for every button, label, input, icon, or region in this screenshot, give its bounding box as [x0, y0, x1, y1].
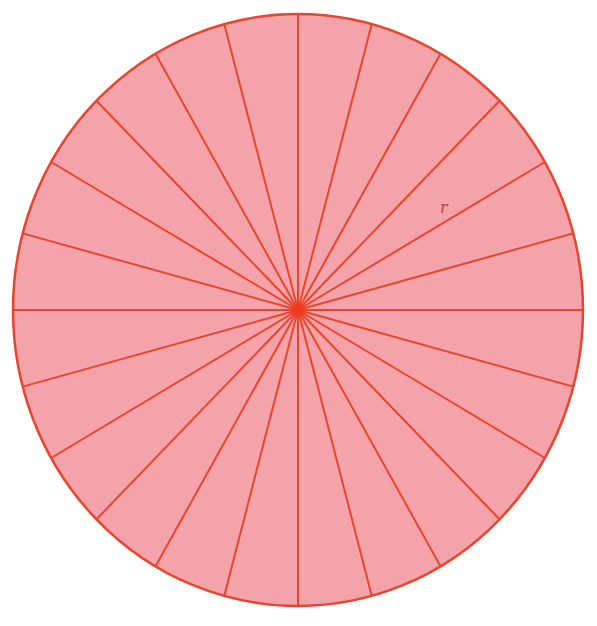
- sector-circle-diagram: r: [0, 0, 597, 626]
- center-point: [292, 304, 304, 316]
- radius-label: r: [440, 198, 449, 217]
